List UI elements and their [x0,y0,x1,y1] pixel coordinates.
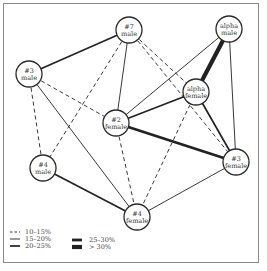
node-label-sex: female [185,92,207,100]
node-af: alphafemale [183,79,209,105]
legend: 10–15%15–20%20–25%25–30%> 30% [10,228,115,251]
node-label-sex: male [21,74,37,82]
edges-layer [29,29,236,217]
legend-label: > 30% [89,243,111,251]
edge-m3-m4 [29,74,43,168]
edge-m7-f2 [116,30,129,123]
edge-m3-f2 [29,74,116,123]
node-label-sex: male [35,168,51,176]
edge-m4-f4 [43,168,137,217]
edge-m7-af [129,30,196,92]
node-m4: #4male [30,155,56,181]
node-m3: #3male [16,61,42,87]
edge-am-f3 [229,29,236,162]
node-label-sex: male [121,30,137,38]
edge-m7-m3 [29,30,129,74]
edge-f3-f4 [137,162,236,217]
edge-m7-m4 [43,30,129,168]
node-label-sex: female [126,217,148,225]
node-am: alphamale [216,16,242,42]
node-m7: #7male [116,17,142,43]
node-label-sex: female [225,162,247,170]
legend-label: 20–25% [25,242,51,250]
social-network-graph: #7malealphamale#3malealphafemale#2female… [0,0,267,271]
node-label-sex: female [105,123,127,131]
node-f3: #3female [223,149,249,175]
node-f2: #2female [103,110,129,136]
edge-am-f2 [116,29,229,123]
node-f4: #4female [124,204,150,230]
node-label-sex: male [221,29,237,37]
